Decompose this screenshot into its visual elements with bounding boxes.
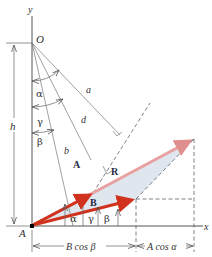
vector-B-label: B <box>90 197 97 208</box>
alpha-top-label: α <box>36 88 43 99</box>
b-label: b <box>64 145 69 156</box>
beta-bottom-label: β <box>104 213 110 224</box>
d-label: d <box>81 114 87 125</box>
vector-R-label: R <box>111 166 119 177</box>
y-axis-label: y <box>27 4 33 15</box>
beta-top-label: β <box>37 136 43 147</box>
vector-A-label: A <box>73 159 81 170</box>
origin-O-label: O <box>36 33 44 45</box>
point-A-label: A <box>18 227 26 239</box>
gamma-top-label: γ <box>37 116 43 127</box>
a-label: a <box>86 84 91 95</box>
gamma-bottom-label: γ <box>88 213 94 224</box>
x-axis-label: x <box>203 221 209 232</box>
alpha-bottom-label: α <box>70 213 77 224</box>
a-cos-alpha-label: A cos α <box>146 241 177 252</box>
b-cos-beta-label: B cos β <box>66 241 95 252</box>
moment-vector-diagram: y x h O α γ β a d b A B R α γ β A <box>0 0 212 257</box>
h-label: h <box>10 120 16 132</box>
point-A-marker <box>30 224 34 228</box>
right-angle-marker <box>113 131 122 136</box>
